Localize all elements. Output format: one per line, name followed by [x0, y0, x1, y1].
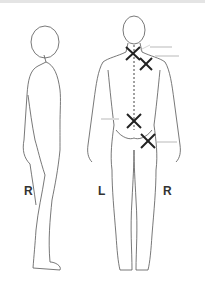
annotation-label [157, 141, 177, 143]
annotation-label [150, 46, 172, 48]
back-view-left-label: L [98, 184, 105, 198]
body-diagram [0, 0, 205, 287]
side-view-figure [23, 26, 60, 270]
marker-right-shoulder [140, 58, 152, 70]
back-view-right-label: R [163, 184, 172, 198]
marker-upper-neck [126, 47, 140, 60]
marker-right-buttock [141, 134, 155, 148]
annotation-label [155, 55, 179, 57]
pain-markers [126, 47, 155, 148]
side-view-right-label: R [24, 184, 33, 198]
annotation-label [101, 118, 119, 120]
